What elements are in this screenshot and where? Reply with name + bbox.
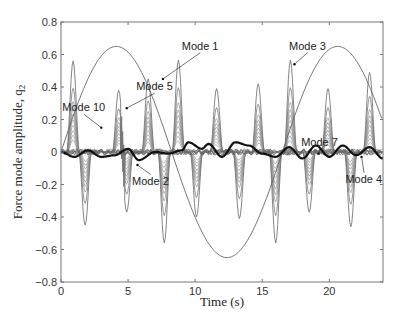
y-tick-label: −0.4 <box>35 211 57 223</box>
x-tick-label: 15 <box>256 285 268 297</box>
y-tick-label: 0.4 <box>42 81 57 93</box>
annotation-leader <box>163 53 200 79</box>
x-tick-label: 5 <box>125 285 131 297</box>
annotation-leader <box>137 165 150 175</box>
y-tick-label: 0.6 <box>42 49 57 61</box>
y-tick-label: −0.2 <box>35 179 57 191</box>
y-tick-label: −0.6 <box>35 244 57 256</box>
y-axis-title-subscript: 2 <box>17 85 27 90</box>
annotation-label: Mode 3 <box>289 40 326 52</box>
x-tick-label: 0 <box>58 285 64 297</box>
y-tick-label: 0.2 <box>42 114 57 126</box>
annotation-label: Mode 2 <box>132 175 169 187</box>
y-axis-title-text: Force mode amplitude, q <box>10 89 25 219</box>
annotation-label: Mode 1 <box>182 40 219 52</box>
annotation-label: Mode 4 <box>345 173 382 185</box>
x-axis-title: Time (s) <box>200 294 244 309</box>
x-tick-label: 20 <box>323 285 335 297</box>
annotation-leader <box>294 53 307 65</box>
plot-lines <box>61 46 383 257</box>
y-tick-label: 0.8 <box>42 16 57 28</box>
annotations: Mode 1Mode 5Mode 10Mode 3Mode 7Mode 2Mod… <box>62 40 382 187</box>
annotation-label: Mode 5 <box>136 80 173 92</box>
annotation-label: Mode 10 <box>62 101 105 113</box>
annotation-leader <box>362 157 365 173</box>
annotation-leader <box>84 114 101 127</box>
annotation-label: Mode 7 <box>301 136 338 148</box>
y-tick-label: 0 <box>51 146 57 158</box>
chart: 05101520−0.8−0.6−0.4−0.200.20.40.60.8 Mo… <box>0 0 396 324</box>
y-axis-title: Force mode amplitude, q2 <box>10 85 27 219</box>
y-tick-label: −0.8 <box>35 276 57 288</box>
